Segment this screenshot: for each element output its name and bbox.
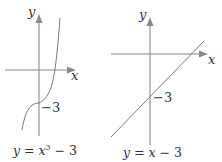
caption-var-x: x — [38, 143, 45, 158]
linear-equation-caption: y = x − 3 — [122, 145, 182, 160]
cubic-y-axis-label: y — [27, 4, 36, 19]
caption-constant: − 3 — [156, 145, 182, 160]
cubic-y-axis-arrow-icon — [36, 14, 43, 23]
linear-line — [111, 41, 204, 137]
caption-equals: = — [130, 145, 148, 160]
cubic-x-axis-label: x — [71, 68, 79, 83]
cubic-graph: y x −3 y = x3 − 3 — [5, 4, 79, 158]
linear-x-axis-label: x — [208, 52, 216, 67]
caption-constant: − 3 — [51, 143, 77, 158]
caption-equals: = — [20, 143, 38, 158]
linear-graph: y x −3 y = x − 3 — [111, 7, 216, 160]
linear-x-axis-arrow-icon — [199, 51, 208, 58]
linear-y-axis-label: y — [138, 7, 147, 22]
caption-var-x: x — [148, 145, 155, 160]
cubic-equation-caption: y = x3 − 3 — [12, 143, 77, 158]
linear-intercept-label: −3 — [153, 90, 172, 105]
cubic-intercept-label: −3 — [41, 100, 60, 115]
linear-y-axis-arrow-icon — [147, 17, 154, 26]
graphs-figure: y x −3 y = x3 − 3 y x −3 y = x − 3 — [0, 0, 222, 162]
graphs-svg: y x −3 y = x3 − 3 y x −3 y = x − 3 — [0, 0, 222, 162]
